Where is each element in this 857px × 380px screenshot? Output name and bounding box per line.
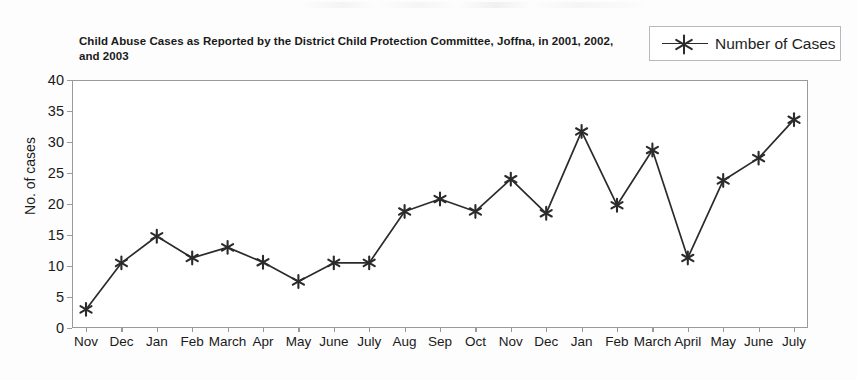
- x-tick-mark: [298, 328, 299, 332]
- data-point-marker: [718, 174, 729, 187]
- scan-artifact: [300, 2, 650, 8]
- chart-page: Child Abuse Cases as Reported by the Dis…: [0, 0, 857, 380]
- y-tick-mark: [67, 80, 72, 81]
- y-tick-label: 35: [24, 103, 64, 119]
- x-tick-mark: [794, 328, 795, 332]
- x-tick-label: Jan: [146, 334, 168, 349]
- y-tick-mark: [67, 204, 72, 205]
- x-tick-mark: [582, 328, 583, 332]
- y-tick-label: 0: [24, 320, 64, 336]
- data-point-marker: [682, 252, 693, 265]
- x-tick-mark: [192, 328, 193, 332]
- data-point-marker: [222, 241, 233, 254]
- x-tick-label: Sep: [428, 334, 452, 349]
- y-tick-label: 15: [24, 227, 64, 243]
- x-tick-label: Jan: [571, 334, 593, 349]
- x-tick-mark: [228, 328, 229, 332]
- legend-label: Number of Cases: [715, 35, 836, 53]
- y-tick-mark: [67, 266, 72, 267]
- y-tick-label: 20: [24, 196, 64, 212]
- y-tick-label: 5: [24, 289, 64, 305]
- data-point-marker: [293, 275, 304, 288]
- x-tick-label: March: [209, 334, 247, 349]
- chart-legend: Number of Cases: [649, 26, 841, 61]
- x-tick-label: Oct: [465, 334, 486, 349]
- x-tick-label: Dec: [109, 334, 133, 349]
- y-tick-mark: [67, 297, 72, 298]
- x-tick-label: Feb: [181, 334, 204, 349]
- x-tick-label: June: [319, 334, 348, 349]
- x-tick-label: May: [710, 334, 736, 349]
- x-tick-label: July: [357, 334, 381, 349]
- y-tick-mark: [67, 111, 72, 112]
- x-tick-mark: [405, 328, 406, 332]
- chart-title: Child Abuse Cases as Reported by the Dis…: [79, 34, 624, 65]
- x-tick-label: Apr: [252, 334, 273, 349]
- x-tick-mark: [652, 328, 653, 332]
- x-tick-mark: [546, 328, 547, 332]
- x-tick-label: May: [286, 334, 312, 349]
- y-tick-mark: [67, 328, 72, 329]
- x-tick-mark: [369, 328, 370, 332]
- chart-plot-area: [72, 80, 808, 328]
- x-tick-mark: [440, 328, 441, 332]
- x-tick-label: Aug: [393, 334, 417, 349]
- data-line: [86, 120, 794, 310]
- y-tick-label: 40: [24, 72, 64, 88]
- data-point-marker: [257, 256, 268, 269]
- legend-marker-icon: [662, 35, 708, 53]
- y-tick-mark: [67, 142, 72, 143]
- x-tick-label: Feb: [605, 334, 628, 349]
- y-tick-mark: [67, 235, 72, 236]
- x-tick-label: Dec: [534, 334, 558, 349]
- x-tick-mark: [511, 328, 512, 332]
- y-tick-label: 10: [24, 258, 64, 274]
- y-tick-label: 25: [24, 165, 64, 181]
- x-tick-label: July: [782, 334, 806, 349]
- x-tick-label: March: [634, 334, 672, 349]
- x-tick-mark: [121, 328, 122, 332]
- x-tick-mark: [475, 328, 476, 332]
- x-tick-label: Nov: [499, 334, 523, 349]
- x-tick-label: Nov: [74, 334, 98, 349]
- x-tick-mark: [688, 328, 689, 332]
- x-tick-label: June: [744, 334, 773, 349]
- data-point-marker: [576, 125, 587, 138]
- data-markers: [80, 113, 799, 316]
- x-tick-mark: [86, 328, 87, 332]
- y-tick-label: 30: [24, 134, 64, 150]
- data-point-marker: [434, 193, 445, 206]
- x-tick-mark: [723, 328, 724, 332]
- x-tick-mark: [157, 328, 158, 332]
- data-point-marker: [187, 252, 198, 265]
- x-tick-mark: [759, 328, 760, 332]
- x-tick-mark: [334, 328, 335, 332]
- asterisk-icon: [673, 34, 695, 55]
- x-tick-mark: [617, 328, 618, 332]
- x-tick-label: April: [674, 334, 701, 349]
- data-point-marker: [151, 230, 162, 243]
- y-tick-mark: [67, 173, 72, 174]
- x-tick-mark: [263, 328, 264, 332]
